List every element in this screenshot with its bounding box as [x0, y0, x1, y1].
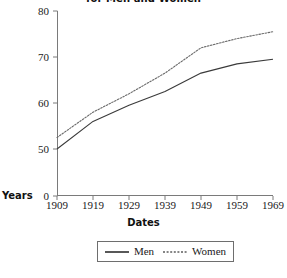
y-tick-label: 80 [9, 6, 49, 17]
chart-figure: for Men and Women 050607080 190919191929… [0, 0, 287, 278]
x-tick-label: 1969 [251, 200, 287, 211]
legend-entry-women: Women [163, 246, 226, 257]
legend-swatch-women-icon [163, 248, 187, 256]
chart-legend: Men Women [97, 241, 234, 262]
legend-swatch-men-icon [105, 248, 129, 256]
y-axis-title: Years [2, 190, 33, 201]
legend-label-women: Women [192, 246, 226, 257]
x-axis-title: Dates [0, 217, 287, 228]
y-tick-label: 60 [9, 98, 49, 109]
y-tick-label: 70 [9, 52, 49, 63]
legend-label-men: Men [134, 246, 154, 257]
legend-entry-men: Men [105, 246, 154, 257]
y-tick-label: 50 [9, 144, 49, 155]
y-tick-labels: 050607080 [0, 0, 287, 278]
